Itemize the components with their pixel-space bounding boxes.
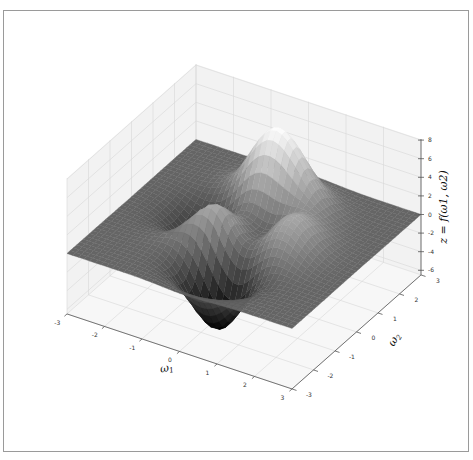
x-tick-label: 1: [205, 369, 209, 376]
y-tick-label: 3: [436, 277, 440, 284]
z-axis-label: z = f(ω1, ω2): [437, 170, 450, 245]
z-tick-label: 8: [428, 136, 432, 143]
x-tick-label: -2: [92, 331, 98, 338]
x-tick-label: -3: [54, 319, 60, 326]
y-axis-label: ω2: [385, 330, 404, 349]
z-tick-label: 2: [428, 192, 432, 199]
y-tick-label: 2: [414, 296, 418, 303]
surface-plot-3d[interactable]: -3-2-10123-3-2-10123-6-4-202468 ω1 ω2 z …: [0, 0, 473, 460]
z-tick-label: 0: [428, 211, 432, 218]
x-tick-label: 3: [280, 394, 284, 401]
z-tick-label: 6: [428, 155, 432, 162]
x-tick-label: 2: [243, 381, 247, 388]
y-tick-label: -2: [327, 372, 333, 379]
y-tick-label: 1: [393, 315, 397, 322]
z-tick-label: 4: [428, 173, 432, 180]
y-tick-label: 0: [371, 334, 375, 341]
y-tick-label: -3: [306, 391, 312, 398]
z-tick-label: -2: [428, 229, 434, 236]
x-tick-label: 0: [168, 356, 172, 363]
y-tick-label: -1: [349, 353, 355, 360]
z-tick-label: -6: [428, 266, 434, 273]
z-tick-label: -4: [428, 248, 434, 255]
x-tick-label: -1: [129, 344, 135, 351]
x-axis-label: ω1: [159, 360, 175, 376]
